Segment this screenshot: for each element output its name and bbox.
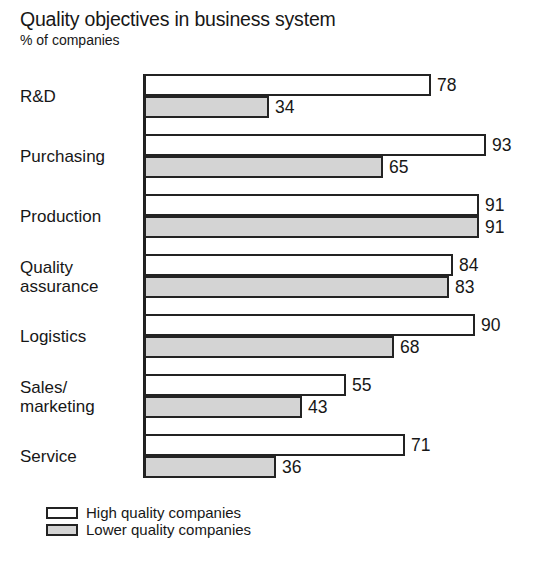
bar-high-quality [144, 374, 346, 396]
plot-area: R&D7834Purchasing9365Production9191Quali… [0, 66, 533, 486]
bar-row: 90 [144, 314, 533, 336]
bar-row: 91 [144, 194, 533, 216]
bar-row: 68 [144, 336, 533, 358]
bar-high-quality [144, 134, 486, 156]
bar-value-label: 68 [400, 338, 419, 357]
bar-group: R&D7834 [0, 74, 533, 118]
bar-value-label: 91 [485, 196, 504, 215]
bar-group: Sales/ marketing5543 [0, 374, 533, 418]
bar-lower-quality [144, 336, 394, 358]
bar-row: 43 [144, 396, 533, 418]
bar-value-label: 93 [492, 136, 511, 155]
bar-row: 65 [144, 156, 533, 178]
bar-row: 55 [144, 374, 533, 396]
chart-header: Quality objectives in business system % … [20, 8, 520, 49]
bar-row: 91 [144, 216, 533, 238]
bar-high-quality [144, 254, 453, 276]
bar-row: 34 [144, 96, 533, 118]
bar-group: Quality assurance8483 [0, 254, 533, 298]
chart-subtitle: % of companies [20, 32, 520, 49]
bar-lower-quality [144, 276, 449, 298]
bar-lower-quality [144, 156, 383, 178]
bar-group: Service7136 [0, 434, 533, 478]
bar-value-label: 65 [389, 158, 408, 177]
bar-high-quality [144, 314, 475, 336]
bar-chart: Quality objectives in business system % … [0, 0, 533, 569]
bar-lower-quality [144, 396, 302, 418]
bar-row: 71 [144, 434, 533, 456]
bar-value-label: 84 [459, 256, 478, 275]
bar-value-label: 78 [437, 76, 456, 95]
bar-row: 78 [144, 74, 533, 96]
chart-title: Quality objectives in business system [20, 8, 520, 31]
bar-row: 84 [144, 254, 533, 276]
legend-swatch-icon [46, 507, 78, 519]
bar-high-quality [144, 434, 405, 456]
bar-group: Logistics9068 [0, 314, 533, 358]
bar-group: Production9191 [0, 194, 533, 238]
legend-label: High quality companies [86, 504, 241, 521]
bar-value-label: 36 [282, 458, 301, 477]
bar-value-label: 43 [308, 398, 327, 417]
bar-lower-quality [144, 216, 479, 238]
bar-value-label: 91 [485, 218, 504, 237]
legend-swatch-icon [46, 524, 78, 536]
bar-high-quality [144, 74, 431, 96]
category-label: Logistics [20, 327, 140, 347]
chart-legend: High quality companiesLower quality comp… [46, 504, 251, 538]
category-label: Service [20, 447, 140, 467]
category-label: R&D [20, 87, 140, 107]
bar-value-label: 34 [275, 98, 294, 117]
category-label: Sales/ marketing [20, 378, 140, 417]
bar-value-label: 90 [481, 316, 500, 335]
bar-value-label: 55 [352, 376, 371, 395]
category-label: Quality assurance [20, 258, 140, 297]
bar-lower-quality [144, 456, 276, 478]
bar-value-label: 71 [411, 436, 430, 455]
bar-row: 36 [144, 456, 533, 478]
bar-group: Purchasing9365 [0, 134, 533, 178]
bar-row: 93 [144, 134, 533, 156]
bar-value-label: 83 [455, 278, 474, 297]
bar-lower-quality [144, 96, 269, 118]
bar-row: 83 [144, 276, 533, 298]
category-label: Purchasing [20, 147, 140, 167]
legend-item: High quality companies [46, 504, 251, 521]
legend-label: Lower quality companies [86, 521, 251, 538]
category-label: Production [20, 207, 140, 227]
bar-high-quality [144, 194, 479, 216]
legend-item: Lower quality companies [46, 521, 251, 538]
